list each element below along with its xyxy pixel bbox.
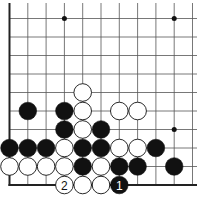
white-stone xyxy=(74,84,92,102)
white-stone xyxy=(111,102,129,120)
black-stone xyxy=(37,139,55,157)
black-stone xyxy=(74,139,92,157)
black-stone xyxy=(56,102,74,120)
white-stone xyxy=(129,102,147,120)
black-stone xyxy=(147,139,165,157)
move-number-label: 1 xyxy=(116,179,123,193)
white-stone xyxy=(56,158,74,176)
white-stone xyxy=(92,158,110,176)
white-stone xyxy=(74,121,92,139)
white-stone xyxy=(56,139,74,157)
white-stone xyxy=(74,102,92,120)
star-point xyxy=(172,16,177,21)
black-stone xyxy=(19,139,37,157)
move-number-label: 2 xyxy=(61,179,68,193)
white-stone xyxy=(111,139,129,157)
black-stone xyxy=(111,158,129,176)
white-stone xyxy=(37,158,55,176)
black-stone xyxy=(92,139,110,157)
white-stone xyxy=(129,139,147,157)
black-stone xyxy=(165,158,183,176)
white-stone xyxy=(19,158,37,176)
black-stone xyxy=(56,121,74,139)
black-stone xyxy=(92,121,110,139)
white-stone xyxy=(1,158,19,176)
black-stone xyxy=(19,102,37,120)
star-point xyxy=(172,127,177,132)
black-stone xyxy=(129,158,147,176)
go-board: 21 xyxy=(0,0,197,200)
black-stone xyxy=(74,158,92,176)
black-stone xyxy=(1,139,19,157)
white-stone xyxy=(92,176,110,194)
star-point xyxy=(62,16,67,21)
white-stone xyxy=(74,176,92,194)
